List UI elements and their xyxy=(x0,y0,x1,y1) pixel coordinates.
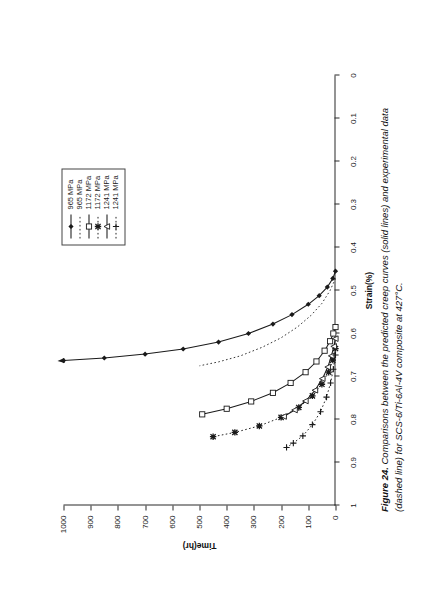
data-point-marker xyxy=(317,409,323,415)
y-tick xyxy=(308,506,309,511)
legend-key-2 xyxy=(85,214,94,240)
series-line-2 xyxy=(202,327,335,414)
x-tick-label: 0.6 xyxy=(349,328,358,339)
data-point-marker xyxy=(319,376,325,382)
legend-key-4 xyxy=(103,214,112,240)
y-tick-label: 500 xyxy=(195,516,204,529)
y-tick xyxy=(145,506,146,511)
data-point-marker xyxy=(330,366,336,372)
plot-axes: 00.10.20.30.40.50.60.70.80.91 0100200300… xyxy=(64,76,336,506)
data-point-marker xyxy=(331,331,336,336)
x-tick-label: 1 xyxy=(349,503,358,507)
data-point-marker xyxy=(249,399,254,404)
y-tick xyxy=(118,506,119,511)
caption-figure-number: Figure 24. xyxy=(379,467,390,512)
data-point-marker xyxy=(288,380,293,385)
data-point-marker xyxy=(113,223,119,229)
x-tick-label: 0.7 xyxy=(349,371,358,382)
y-tick-label: 300 xyxy=(249,516,258,529)
data-point-marker xyxy=(292,407,298,413)
data-point-marker xyxy=(289,312,294,317)
data-point-marker xyxy=(224,406,229,411)
legend-key-1 xyxy=(76,214,85,240)
data-point-marker xyxy=(232,429,238,435)
y-axis-title: Time(hr) xyxy=(183,541,217,551)
curve-layer xyxy=(64,76,336,506)
y-tick xyxy=(254,506,255,511)
y-tick-label: 100 xyxy=(304,516,313,529)
y-tick xyxy=(281,506,282,511)
y-tick-label: 800 xyxy=(113,516,122,529)
data-point-marker xyxy=(216,340,221,345)
x-tick-label: 0 xyxy=(349,73,358,77)
data-point-marker xyxy=(270,390,275,395)
y-tick-label: 200 xyxy=(277,516,286,529)
y-tick-label: 1000 xyxy=(59,516,68,534)
y-tick-label: 600 xyxy=(168,516,177,529)
y-tick xyxy=(172,506,173,511)
data-point-marker xyxy=(327,339,332,344)
y-tick-label: 900 xyxy=(86,516,95,529)
data-point-marker xyxy=(256,423,262,429)
data-point-marker xyxy=(325,364,331,370)
data-point-marker xyxy=(333,269,338,274)
legend-item-5[interactable]: 1241 MPa xyxy=(112,175,121,239)
data-point-marker xyxy=(322,348,327,353)
data-point-marker xyxy=(314,359,319,364)
figure-container: 00.10.20.30.40.50.60.70.80.91 0100200300… xyxy=(0,0,425,603)
legend-key-0 xyxy=(67,214,76,240)
data-point-marker xyxy=(102,355,107,360)
figure-caption: Figure 24. Comparisons between the predi… xyxy=(361,0,423,603)
data-point-marker xyxy=(68,224,73,229)
x-tick-label: 0.5 xyxy=(349,285,358,296)
data-point-marker xyxy=(300,433,306,439)
plot-wrap: 00.10.20.30.40.50.60.70.80.91 0100200300… xyxy=(46,44,386,564)
legend-key-3 xyxy=(94,214,103,240)
series-line-4 xyxy=(284,339,336,417)
x-tick-label: 0.3 xyxy=(349,199,358,210)
y-tick xyxy=(227,506,228,511)
x-tick-label: 0.2 xyxy=(349,156,358,167)
data-point-marker xyxy=(283,444,289,450)
data-point-marker xyxy=(210,434,216,440)
data-point-marker xyxy=(86,224,91,229)
y-tick-label: 700 xyxy=(141,516,150,529)
data-point-marker xyxy=(95,223,101,229)
y-tick xyxy=(91,506,92,511)
y-tick-label: 400 xyxy=(222,516,231,529)
data-point-marker xyxy=(328,380,334,386)
chart-legend: 965 MPa965 MPa1172 MPa1172 MPa1241 MPa12… xyxy=(62,168,126,245)
series-line-0 xyxy=(64,271,336,360)
caption-body: Comparisons between the predicted creep … xyxy=(379,108,404,512)
data-point-marker xyxy=(333,324,338,329)
legend-key-5 xyxy=(112,214,121,240)
series-line-1 xyxy=(200,279,336,366)
x-tick-label: 0.8 xyxy=(349,414,358,425)
data-point-marker xyxy=(181,346,186,351)
y-tick xyxy=(336,506,337,511)
data-point-marker xyxy=(246,331,251,336)
x-tick-label: 0.9 xyxy=(349,457,358,468)
data-point-marker xyxy=(143,352,148,357)
data-point-marker xyxy=(303,370,308,375)
data-point-marker xyxy=(270,321,275,326)
y-tick-label: 0 xyxy=(331,516,340,520)
y-tick xyxy=(200,506,201,511)
data-point-marker xyxy=(330,276,335,281)
x-tick-label: 0.4 xyxy=(349,242,358,253)
rotated-chart-canvas: 00.10.20.30.40.50.60.70.80.91 0100200300… xyxy=(46,44,386,564)
data-point-marker xyxy=(323,394,329,400)
data-point-marker xyxy=(290,440,296,446)
data-point-marker xyxy=(200,412,205,417)
x-tick-label: 0.1 xyxy=(349,113,358,124)
legend-label-5: 1241 MPa xyxy=(111,175,122,209)
curve-end-arrow xyxy=(58,358,65,363)
y-tick xyxy=(64,506,65,511)
